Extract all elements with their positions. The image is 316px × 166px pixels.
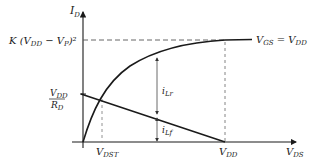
ilr-label: iLr — [162, 86, 174, 98]
mosfet-characteristic-diagram: ID K (VDD − VP)² VGS = VDD VDD RD VDST V… — [0, 0, 316, 166]
load-intercept-denominator: RD — [50, 100, 64, 112]
y-axis-label: ID — [69, 4, 80, 19]
ilf-label: iLf — [162, 125, 174, 137]
vdst-label: VDST — [96, 146, 120, 159]
load-intercept-numerator: VDD — [50, 88, 68, 100]
load-line — [81, 94, 225, 142]
x-axis-label: VDS — [286, 146, 304, 159]
curve-label-vgs-vdd: VGS = VDD — [256, 34, 307, 47]
vdd-label: VDD — [219, 146, 238, 159]
k-level-label: K (VDD − VP)² — [8, 35, 77, 48]
